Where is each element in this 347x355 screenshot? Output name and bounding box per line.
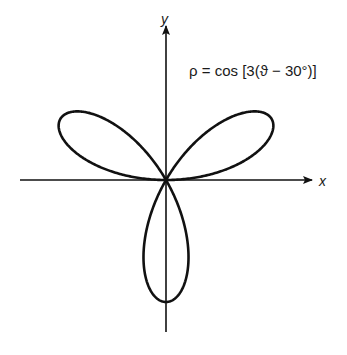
rose-curve-diagram: y x ρ = cos [3(ϑ − 30°)] xyxy=(0,0,347,355)
equation-label: ρ = cos [3(ϑ − 30°)] xyxy=(189,62,317,79)
x-axis-label: x xyxy=(318,173,327,189)
y-axis-label: y xyxy=(160,11,169,27)
